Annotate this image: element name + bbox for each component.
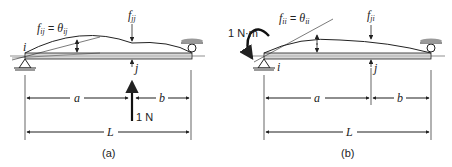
load-label: 1 N xyxy=(136,111,153,123)
beam-diagram: fij=θij fjj i j a b L 1 N (a) xyxy=(0,0,452,167)
dim-a-label: a xyxy=(74,91,80,105)
point-i-label: i xyxy=(277,60,280,74)
deflection-label-b: fji xyxy=(367,8,375,23)
roller-support xyxy=(420,39,442,53)
pin-support xyxy=(14,59,36,71)
slope-label-a: fij=θij xyxy=(37,21,68,36)
moment-label: 1 N·m xyxy=(228,27,258,39)
point-j-label: j xyxy=(372,61,378,75)
panel-a: fij=θij fjj i j a b L 1 N (a) xyxy=(10,8,205,159)
panel-b: 1 N·m fii=θii fji i j a b L (b) xyxy=(228,8,445,159)
point-i-label: i xyxy=(23,40,26,54)
deflected-shape xyxy=(25,35,192,53)
roller-support xyxy=(181,39,203,53)
caption-b: (b) xyxy=(341,147,354,159)
dim-L-label: L xyxy=(106,125,114,139)
point-j-label: j xyxy=(133,61,139,75)
dim-b-label: b xyxy=(397,91,403,105)
deflected-shape xyxy=(264,39,431,53)
caption-a: (a) xyxy=(102,147,115,159)
slope-label-b: fii=θii xyxy=(279,11,310,26)
dim-a-label: a xyxy=(314,91,320,105)
dim-L-label: L xyxy=(345,125,353,139)
deflection-label-a: fjj xyxy=(128,8,137,23)
dim-b-label: b xyxy=(159,91,165,105)
